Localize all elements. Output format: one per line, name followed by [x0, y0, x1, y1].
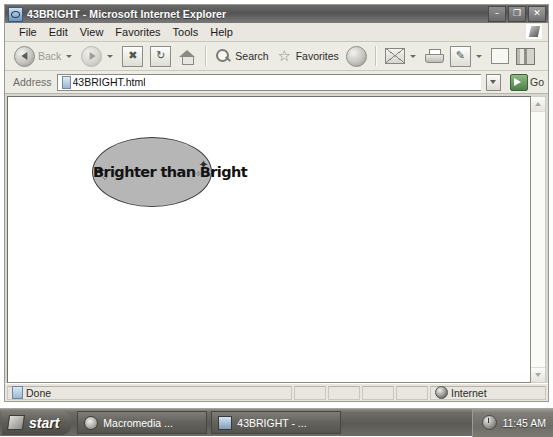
refresh-icon: ↻	[150, 46, 171, 67]
ie-document-icon	[8, 7, 23, 22]
forward-arrow-icon	[81, 46, 102, 67]
chevron-down-icon	[490, 80, 496, 84]
home-button[interactable]	[175, 45, 200, 67]
scroll-down-button[interactable]	[531, 367, 545, 382]
forward-button[interactable]	[78, 45, 118, 67]
close-icon: ✕	[529, 7, 545, 21]
window-controls: – ❐ ✕	[488, 6, 546, 22]
toolbar-separator-2	[375, 46, 377, 66]
printer-icon	[425, 49, 443, 64]
status-pane-4	[396, 386, 428, 400]
menu-item-file[interactable]: File	[13, 25, 43, 39]
content-area: ✦ ✧ ✦ ✧ Brighter than Bright	[5, 94, 548, 383]
scrollbar-track[interactable]	[531, 112, 545, 367]
windows-logo-icon	[7, 415, 25, 430]
start-button-label: start	[29, 415, 59, 431]
flash-icon	[84, 416, 98, 430]
toolbar-separator	[205, 46, 207, 66]
discuss-icon	[491, 48, 509, 64]
back-button-label: Back	[38, 50, 61, 62]
status-bar: Done Internet	[5, 383, 548, 401]
status-message-pane: Done	[7, 386, 292, 400]
menu-item-help[interactable]: Help	[204, 25, 239, 39]
web-page-document[interactable]: ✦ ✧ ✦ ✧ Brighter than Bright	[7, 96, 531, 383]
address-value: 43BRIGHT.html	[73, 76, 146, 88]
security-zone-pane[interactable]: Internet	[430, 386, 546, 400]
mail-button[interactable]	[382, 45, 421, 67]
close-button[interactable]: ✕	[528, 6, 546, 22]
edit-page-icon: ✎	[450, 46, 471, 67]
favorites-button[interactable]: ☆ Favorites	[273, 45, 342, 67]
taskbar: start Macromedia ... 43BRIGHT - ... 11:4…	[0, 408, 553, 436]
search-button-label: Search	[235, 50, 268, 62]
search-button[interactable]: Search	[212, 45, 271, 67]
edit-button[interactable]: ✎	[447, 45, 487, 67]
stop-icon: ✖	[122, 46, 143, 67]
address-label: Address	[13, 76, 52, 88]
research-books-icon	[516, 48, 535, 65]
star-icon: ☆	[276, 48, 293, 65]
menu-item-tools[interactable]: Tools	[167, 25, 205, 39]
globe-icon	[435, 386, 448, 399]
back-dropdown-icon[interactable]	[66, 55, 72, 58]
restore-icon: ❐	[509, 7, 525, 21]
taskbar-clock[interactable]: 11:45 AM	[502, 417, 546, 429]
caret-up-icon	[535, 102, 541, 106]
favorites-button-label: Favorites	[296, 50, 339, 62]
status-pane-3	[362, 386, 394, 400]
vertical-scrollbar[interactable]	[531, 96, 546, 383]
status-pane-2	[328, 386, 360, 400]
menu-item-edit[interactable]: Edit	[43, 25, 74, 39]
mail-dropdown-icon[interactable]	[410, 55, 416, 58]
go-button-label: Go	[530, 76, 544, 88]
document-icon	[12, 386, 23, 399]
back-button[interactable]: Back	[11, 45, 77, 67]
restore-button[interactable]: ❐	[508, 6, 526, 22]
start-button[interactable]: start	[2, 411, 71, 435]
discuss-button[interactable]	[488, 45, 512, 67]
scroll-up-button[interactable]	[531, 97, 545, 112]
status-pane-1	[294, 386, 326, 400]
tray-volume-icon[interactable]	[482, 415, 497, 430]
forward-dropdown-icon[interactable]	[107, 55, 113, 58]
edit-dropdown-icon[interactable]	[476, 55, 482, 58]
security-zone-label: Internet	[451, 387, 487, 399]
media-icon	[346, 46, 367, 67]
window-title: 43BRIGHT - Microsoft Internet Explorer	[27, 8, 488, 20]
address-input[interactable]: 43BRIGHT.html	[57, 74, 481, 91]
browser-toolbar: Back ✖ ↻ Search ☆	[5, 42, 548, 71]
bubble-headline-text: Brighter than Bright	[93, 164, 211, 180]
status-message: Done	[26, 387, 51, 399]
taskbar-item-43bright[interactable]: 43BRIGHT - ...	[211, 411, 341, 434]
window-titlebar[interactable]: 43BRIGHT - Microsoft Internet Explorer –…	[5, 5, 548, 23]
menu-bar: File Edit View Favorites Tools Help	[5, 23, 548, 42]
caret-down-icon	[535, 373, 541, 377]
research-button[interactable]	[513, 45, 538, 67]
back-arrow-icon	[14, 46, 35, 67]
taskbar-item-macromedia-label: Macromedia ...	[103, 417, 172, 429]
go-button[interactable]: Go	[506, 74, 544, 91]
address-dropdown-button[interactable]	[486, 74, 501, 91]
print-button[interactable]	[422, 45, 446, 67]
internet-explorer-window: 43BRIGHT - Microsoft Internet Explorer –…	[4, 4, 549, 402]
minimize-icon: –	[489, 7, 505, 21]
ie-icon	[218, 416, 232, 430]
refresh-button[interactable]: ↻	[147, 45, 174, 67]
taskbar-item-43bright-label: 43BRIGHT - ...	[237, 417, 306, 429]
address-bar: Address 43BRIGHT.html Go	[5, 71, 548, 94]
brighter-than-bright-graphic: ✦ ✧ ✦ ✧ Brighter than Bright	[92, 137, 212, 207]
windows-flag-logo	[526, 24, 542, 39]
menu-item-view[interactable]: View	[74, 25, 110, 39]
page-favicon	[62, 76, 71, 89]
system-tray: 11:45 AM	[472, 409, 553, 437]
stop-button[interactable]: ✖	[119, 45, 146, 67]
taskbar-item-macromedia[interactable]: Macromedia ...	[77, 411, 207, 434]
home-icon	[178, 47, 197, 66]
go-arrow-icon	[510, 74, 528, 91]
media-button[interactable]	[343, 45, 370, 67]
search-icon	[215, 48, 232, 65]
mail-icon	[385, 48, 405, 64]
menu-item-favorites[interactable]: Favorites	[109, 25, 166, 39]
minimize-button[interactable]: –	[488, 6, 506, 22]
